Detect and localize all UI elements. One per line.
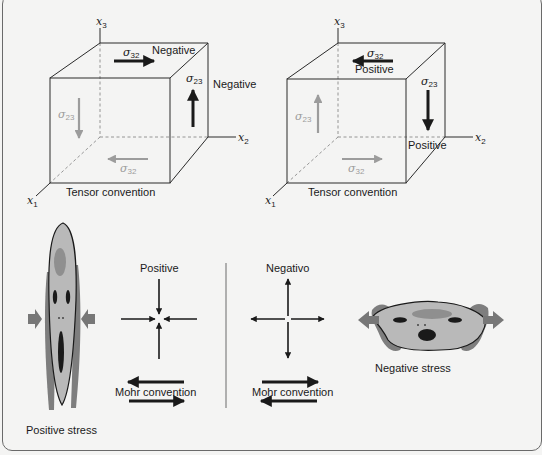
tensor-cube-positive: x3 x2 x1 σ32 Positive σ23 Positive σ23 σ… xyxy=(265,15,486,209)
face-forehead-shade xyxy=(54,248,66,276)
face-stretched-caption: Negative stress xyxy=(375,362,451,374)
side-sign-label: Negative xyxy=(213,78,256,90)
sigma23-hidden-label: σ23 xyxy=(295,110,312,124)
outward-arrow-cross xyxy=(251,279,324,358)
face-nostril xyxy=(58,317,60,319)
mohr-negative-caption: Mohr convention xyxy=(252,386,333,398)
compression-arrow-left xyxy=(28,309,42,329)
sigma32-hidden-label: σ32 xyxy=(348,162,365,176)
side-sign-label: Positive xyxy=(408,139,447,151)
face-nostril xyxy=(424,324,426,326)
face-compressed-caption: Positive stress xyxy=(26,424,97,436)
x1-label: x1 xyxy=(27,194,38,209)
face-nostril xyxy=(417,324,419,326)
face-mouth xyxy=(58,331,64,373)
sigma23-hidden-label: σ23 xyxy=(58,108,75,122)
top-sign-label: Negative xyxy=(152,44,195,56)
x2-label: x2 xyxy=(238,131,249,146)
face-right-eye xyxy=(448,317,462,323)
sigma32-top-label: σ32 xyxy=(367,47,384,61)
face-forehead-shade xyxy=(412,309,452,319)
mohr-positive-caption: Mohr convention xyxy=(115,386,196,398)
inward-arrow-cross xyxy=(121,279,197,359)
tensor-convention-caption: Tensor convention xyxy=(66,186,155,198)
x3-label: x3 xyxy=(334,15,345,30)
mohr-negative: Negativo Mohr convention xyxy=(251,262,333,401)
x2-label: x2 xyxy=(475,131,486,146)
x1-axis xyxy=(273,183,287,196)
tensor-cube-negative: x3 x2 x1 σ32 Negative σ23 Negative σ23 σ… xyxy=(27,15,256,209)
mohr-positive: Positive Mohr convention xyxy=(115,262,197,401)
x3-label: x3 xyxy=(96,15,107,30)
tensor-convention-caption: Tensor convention xyxy=(308,186,397,198)
face-right-eye xyxy=(66,290,70,304)
sigma23-side-label: σ23 xyxy=(186,72,203,86)
sigma32-hidden-label: σ32 xyxy=(120,162,137,176)
face-nostril xyxy=(62,317,64,319)
mohr-negative-title: Negativo xyxy=(266,262,309,274)
sigma32-top-label: σ32 xyxy=(123,46,140,60)
face-compressed: Positive stress xyxy=(26,223,97,436)
face-stretched: Negative stress xyxy=(358,302,504,374)
x1-axis xyxy=(36,183,50,196)
face-left-eye xyxy=(393,317,407,323)
mohr-positive-title: Positive xyxy=(140,262,179,274)
top-sign-label: Positive xyxy=(355,63,394,75)
compression-arrow-right xyxy=(81,309,95,329)
face-left-eye xyxy=(53,290,57,304)
sigma23-side-label: σ23 xyxy=(421,75,438,89)
x1-label: x1 xyxy=(265,194,276,209)
face-mouth xyxy=(418,329,436,341)
